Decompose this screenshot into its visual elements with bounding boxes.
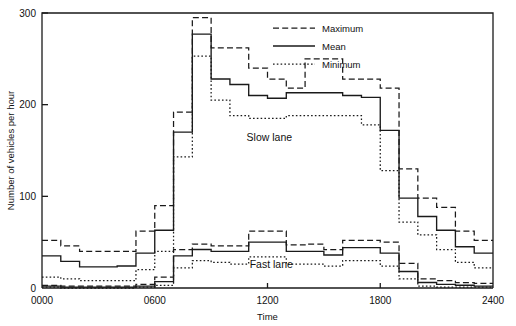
series-group-slow-lane [42, 18, 493, 281]
y-axis: 0100200300 [19, 8, 48, 294]
x-tick-label: 0000 [31, 295, 54, 306]
y-axis-title: Number of vehicles per hour [5, 91, 16, 210]
legend-label-maximum: Maximum [322, 23, 363, 34]
series-line-minimum [42, 56, 493, 281]
plot-frame [42, 13, 493, 288]
y-tick-label: 200 [19, 99, 36, 110]
series-line-mean [42, 34, 493, 267]
annotation-fast-lane: Fast lane [250, 258, 293, 270]
legend: MaximumMeanMinimum [273, 23, 363, 70]
y-tick-label: 300 [19, 8, 36, 19]
traffic-step-chart: 010020030000000600120018002400TimeNumber… [0, 0, 516, 326]
legend-label-minimum: Minimum [322, 59, 361, 70]
legend-label-mean: Mean [322, 41, 346, 52]
x-tick-label: 2400 [482, 295, 505, 306]
x-tick-label: 0600 [144, 295, 167, 306]
y-tick-label: 0 [30, 283, 36, 294]
data-series-layer [42, 18, 493, 288]
annotation-slow-lane: Slow lane [247, 131, 293, 143]
y-tick-label: 100 [19, 191, 36, 202]
x-axis-title: Time [257, 311, 278, 322]
x-tick-label: 1200 [256, 295, 279, 306]
x-tick-label: 1800 [369, 295, 392, 306]
chart-figure: 010020030000000600120018002400TimeNumber… [0, 0, 516, 326]
